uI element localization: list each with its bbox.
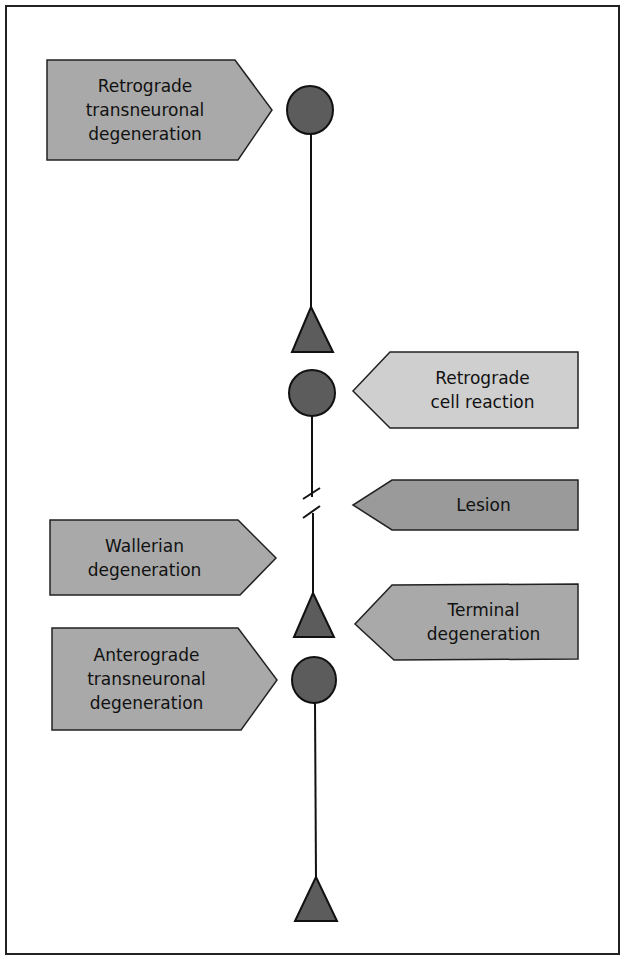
terminal-neuron-3	[295, 877, 337, 921]
cell-body-neuron-3	[292, 657, 336, 703]
label-anterograde-transneuronal: Anterograde transneuronal degeneration	[54, 630, 239, 728]
label-retrograde-transneuronal: Retrograde transneuronal degeneration	[50, 62, 240, 158]
label-wallerian: Wallerian degeneration	[52, 522, 237, 593]
lesion-mark-2	[303, 506, 320, 518]
label-terminal: Terminal degeneration	[392, 586, 575, 658]
label-lesion: Lesion	[392, 482, 575, 528]
cell-body-neuron-1	[287, 86, 333, 134]
axon-neuron-3	[315, 702, 316, 880]
terminal-neuron-2	[294, 593, 334, 637]
label-retrograde-cell-reaction: Retrograde cell reaction	[390, 354, 575, 426]
cell-body-neuron-2	[289, 370, 335, 416]
terminal-neuron-1	[292, 307, 333, 352]
